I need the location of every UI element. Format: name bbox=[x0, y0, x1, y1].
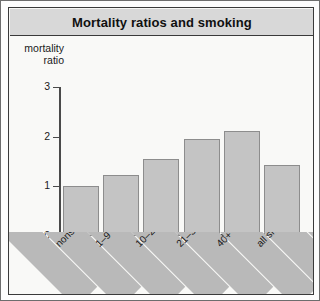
y-axis-label-line2: ratio bbox=[12, 54, 64, 66]
plot-area: mortality ratio 0123 nonsmokers1–910–202… bbox=[10, 36, 314, 295]
bar-10-20 bbox=[143, 159, 179, 236]
bar-all-smokers bbox=[264, 165, 300, 236]
y-axis-tick-label: 1 bbox=[28, 179, 50, 191]
bar-40- bbox=[224, 131, 260, 236]
bar-21-39 bbox=[184, 139, 220, 236]
bar-1-9 bbox=[103, 175, 139, 236]
y-axis-tick-label: 3 bbox=[28, 80, 50, 92]
y-axis-label: mortality ratio bbox=[12, 42, 64, 66]
category-label-band: nonsmokers1–910–2021–3940+all smokers bbox=[8, 232, 314, 295]
y-axis-tick-label: 2 bbox=[28, 130, 50, 142]
y-axis-label-line1: mortality bbox=[12, 42, 64, 54]
y-axis-tick bbox=[53, 186, 61, 187]
y-axis-tick bbox=[53, 137, 61, 138]
chart-frame: Mortality ratios and smoking mortality r… bbox=[0, 0, 320, 301]
y-axis-tick bbox=[53, 87, 61, 88]
chart-inner-frame: Mortality ratios and smoking mortality r… bbox=[8, 7, 314, 295]
chart-title-bar: Mortality ratios and smoking bbox=[10, 9, 314, 36]
bar-series bbox=[61, 87, 302, 236]
bar-nonsmokers bbox=[63, 186, 99, 236]
page-title: Mortality ratios and smoking bbox=[10, 9, 314, 36]
